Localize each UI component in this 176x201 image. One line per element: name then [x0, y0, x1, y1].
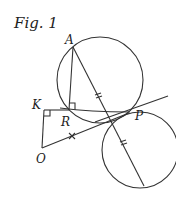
right-angle-mark-k	[44, 110, 50, 116]
line-ko	[42, 110, 44, 148]
label-point-o: O	[36, 153, 46, 165]
label-point-r: R	[61, 116, 70, 128]
label-point-p: P	[135, 110, 143, 122]
geometry-figure	[0, 0, 176, 201]
upper-circle	[57, 37, 143, 123]
label-point-a: A	[65, 34, 74, 46]
line-ar	[69, 47, 73, 110]
label-point-k: K	[32, 99, 41, 111]
line-ap-extended	[73, 47, 144, 186]
tick-ap-1	[95, 93, 101, 95]
tangent-line	[95, 96, 168, 122]
